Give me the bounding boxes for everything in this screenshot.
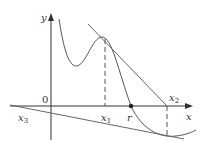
x-axis-arrow-icon — [185, 103, 193, 109]
y-axis-arrow-icon — [48, 13, 54, 21]
root-point — [129, 104, 133, 108]
x2-label: x2 — [169, 92, 179, 105]
x3-label: x3 — [18, 112, 28, 125]
origin-label: 0 — [42, 94, 48, 105]
tangent-line-x2 — [10, 105, 184, 139]
tangent-line-x1 — [88, 24, 167, 106]
y-axis-label: y — [40, 12, 47, 23]
r-label: r — [127, 112, 133, 123]
newton-method-diagram: y x 0 x1 r x2 x3 — [0, 0, 201, 154]
x-axis-label: x — [186, 111, 192, 122]
